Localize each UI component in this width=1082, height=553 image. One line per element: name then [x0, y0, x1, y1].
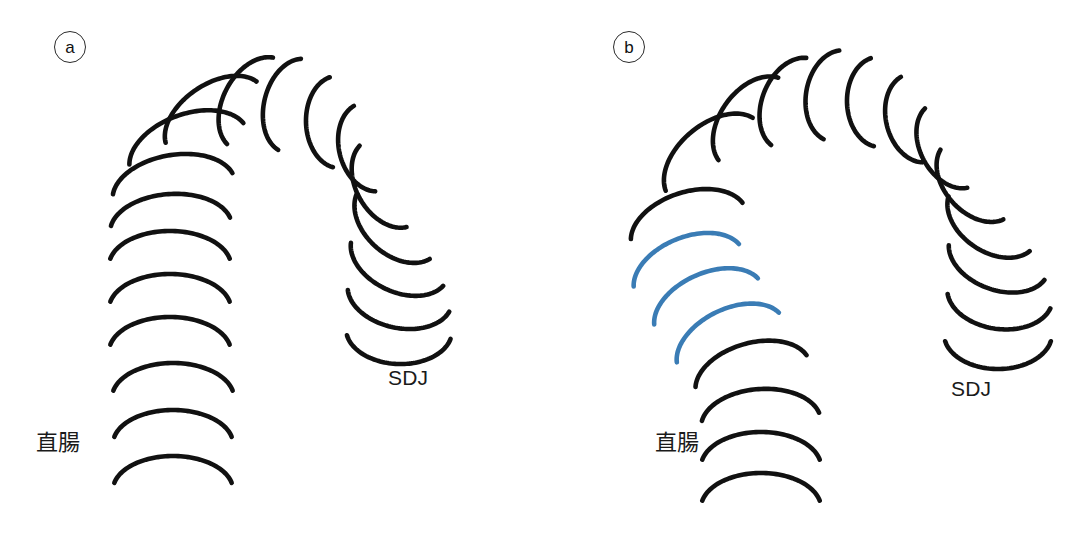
fold-arc-stroke: [254, 53, 301, 150]
fold-arc-stroke: [845, 58, 873, 147]
fold-arc-stroke: [933, 197, 1029, 274]
fold-arc-stroke: [114, 410, 231, 437]
haustral-fold-arc: [933, 197, 1029, 274]
haustral-fold-arc: [254, 53, 301, 150]
panel-label-a: a: [54, 31, 86, 63]
haustral-fold-arc: [346, 335, 451, 366]
panel-label-b: b: [613, 31, 645, 63]
panel-a: a 直腸 SDJ: [0, 0, 541, 553]
fold-arc-stroke: [647, 96, 752, 191]
haustral-fold-arc: [623, 218, 739, 286]
haustral-fold-arc: [921, 150, 1003, 237]
sdj-label-a: SDJ: [388, 366, 428, 390]
haustral-fold-arc: [747, 48, 806, 145]
haustral-fold-arc: [110, 274, 229, 302]
haustral-fold-arc: [342, 290, 449, 338]
haustral-fold-arc: [903, 108, 968, 199]
fold-arc-stroke: [339, 194, 430, 279]
haustral-fold-arc: [304, 77, 332, 168]
fold-arc-stroke: [113, 363, 232, 391]
haustral-fold-arc: [700, 385, 819, 421]
fold-arc-stroke: [643, 253, 758, 324]
panel-b-arc-group: [541, 0, 1082, 553]
fold-arc-stroke: [342, 290, 449, 338]
haustral-fold-arc: [339, 194, 430, 279]
fold-arc-stroke: [108, 145, 232, 194]
fold-arc-stroke: [109, 190, 230, 226]
rectum-label-b: 直腸: [655, 424, 699, 456]
haustral-fold-arc: [108, 145, 232, 194]
haustral-fold-arc: [622, 176, 742, 239]
fold-arc-stroke: [944, 294, 1051, 336]
haustral-fold-arc: [340, 243, 444, 310]
haustral-fold-arc: [114, 410, 231, 437]
haustral-fold-arc: [702, 432, 819, 460]
fold-arc-stroke: [702, 473, 819, 501]
fold-arc-stroke: [114, 456, 231, 483]
fold-arc-stroke: [304, 77, 332, 168]
fold-arc-stroke: [110, 317, 229, 345]
fold-arc-stroke: [340, 243, 444, 310]
fold-arc-stroke: [697, 62, 779, 160]
rectum-label-a: 直腸: [36, 424, 80, 456]
haustral-fold-arc: [647, 96, 752, 191]
haustral-fold-arc: [643, 253, 758, 324]
fold-arc-stroke: [110, 274, 229, 302]
haustral-fold-arc: [702, 473, 819, 501]
haustral-fold-arc: [688, 328, 807, 386]
fold-arc-stroke: [747, 48, 806, 145]
fold-arc-stroke: [702, 432, 819, 460]
haustral-fold-arc: [114, 456, 231, 483]
haustral-fold-arc: [945, 341, 1051, 369]
haustral-fold-arc: [944, 294, 1051, 336]
haustral-fold-arc: [110, 317, 229, 345]
fold-arc-stroke: [346, 335, 451, 366]
figure-canvas: a 直腸 SDJ b 直腸 SDJ: [0, 0, 1082, 553]
haustral-fold-arc: [110, 231, 229, 259]
haustral-fold-arc: [845, 58, 873, 147]
fold-arc-stroke: [623, 218, 739, 286]
fold-arc-stroke: [110, 231, 229, 259]
haustral-fold-arc: [697, 62, 779, 160]
haustral-fold-arc: [113, 363, 232, 391]
fold-arc-stroke: [921, 150, 1003, 237]
fold-arc-stroke: [688, 328, 807, 386]
sdj-label-b: SDJ: [951, 377, 991, 401]
fold-arc-stroke: [700, 385, 819, 421]
fold-arc-stroke: [903, 108, 968, 199]
fold-arc-stroke: [945, 341, 1051, 369]
haustral-fold-arc: [109, 190, 230, 226]
panel-b: b 直腸 SDJ: [541, 0, 1082, 553]
fold-arc-stroke: [622, 176, 742, 239]
panel-a-arc-group: [0, 0, 541, 553]
